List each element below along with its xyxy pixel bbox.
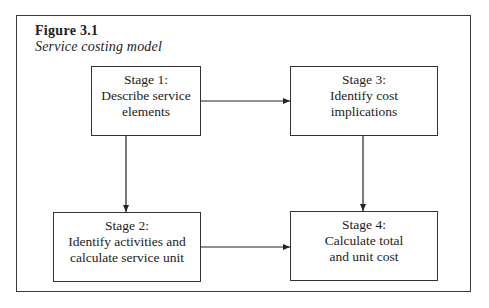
connector-layer [0,0,489,308]
